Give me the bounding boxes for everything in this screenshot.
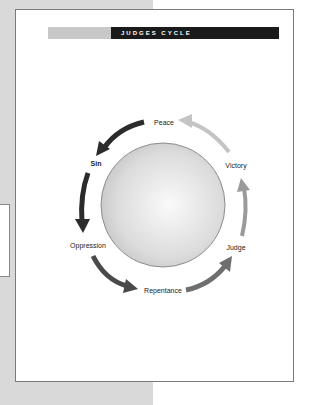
arrow-repentance-to-judge [186,256,232,290]
stage-label-judge: Judge [226,244,245,251]
center-circle [101,143,225,267]
arrow-oppression-to-repentance [93,256,138,293]
arrow-judge-to-victory [237,178,250,236]
arrow-victory-to-peace [178,114,229,152]
stage-label-victory: Victory [225,162,246,169]
stage-label-sin: Sin [91,160,102,167]
arrow-sin-to-oppression [75,173,90,233]
cycle-diagram [0,0,309,405]
stage-label-repentance: Repentance [144,287,182,294]
stage-label-peace: Peace [154,119,174,126]
stage-label-oppression: Oppression [70,242,106,249]
